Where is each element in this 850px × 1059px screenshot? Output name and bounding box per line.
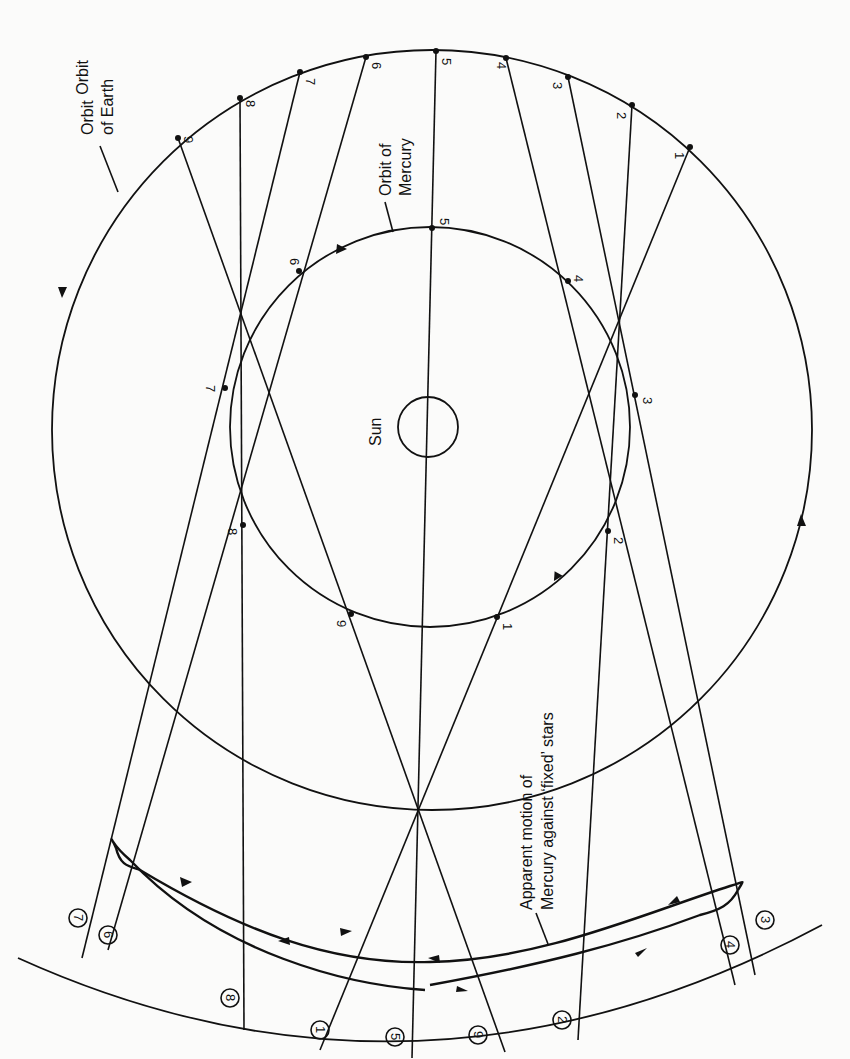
svg-text:6: 6 xyxy=(101,931,116,938)
mercury-orbit-leader xyxy=(385,202,393,232)
fixed-stars-arc xyxy=(18,925,822,1041)
svg-text:4: 4 xyxy=(723,941,738,948)
svg-text:8: 8 xyxy=(223,994,238,1001)
svg-text:3: 3 xyxy=(758,916,773,923)
svg-text:3: 3 xyxy=(640,397,655,404)
earth-orbit-label-line2: of Earth xyxy=(99,79,116,135)
svg-text:1: 1 xyxy=(672,152,687,159)
apparent-motion-label-line2: Mercury against ‘fixed’ stars xyxy=(539,712,556,910)
earth-orbit-label-1: Orbit xyxy=(74,59,91,94)
svg-text:7: 7 xyxy=(71,914,86,921)
svg-text:7: 7 xyxy=(203,385,218,392)
svg-text:4: 4 xyxy=(571,275,586,282)
mercury-orbit-label-line1: Orbit of xyxy=(377,143,394,196)
earth-orbit-label-line1: Orbit xyxy=(79,100,96,135)
orbit-labels: Orbit xyxy=(74,59,91,94)
svg-text:9: 9 xyxy=(181,136,196,143)
svg-text:6: 6 xyxy=(369,62,384,69)
apparent-motion-label-line1: Apparent motion of xyxy=(518,774,535,910)
apparent-motion-leader xyxy=(536,913,548,944)
svg-text:2: 2 xyxy=(611,537,626,544)
sun-label: Sun xyxy=(367,418,384,446)
star-position-labels: 1 2 3 4 5 6 7 8 9 xyxy=(69,909,774,1046)
mercury-orbit-label-line2: Mercury xyxy=(397,138,414,196)
svg-text:7: 7 xyxy=(303,78,318,85)
svg-text:8: 8 xyxy=(243,100,258,107)
svg-text:5: 5 xyxy=(439,58,454,65)
svg-text:1: 1 xyxy=(313,1026,328,1033)
svg-text:8: 8 xyxy=(225,528,240,535)
apparent-motion-path xyxy=(112,839,743,992)
svg-text:9: 9 xyxy=(334,620,349,627)
svg-text:2: 2 xyxy=(555,1016,570,1023)
mercury-point-labels: 1 2 3 4 5 6 7 8 9 xyxy=(203,218,655,630)
mercury-retrograde-diagram: 1 2 3 4 5 6 7 8 9 1 2 3 4 5 6 7 8 9 Orbi… xyxy=(0,0,850,1059)
svg-text:5: 5 xyxy=(437,218,452,225)
svg-text:6: 6 xyxy=(287,258,302,265)
orbit-direction-arrows xyxy=(58,244,806,581)
svg-text:4: 4 xyxy=(494,62,509,69)
svg-text:9: 9 xyxy=(471,1031,486,1038)
svg-text:2: 2 xyxy=(614,112,629,119)
svg-text:3: 3 xyxy=(550,82,565,89)
earth-orbit xyxy=(52,50,812,810)
svg-text:1: 1 xyxy=(500,623,515,630)
svg-text:5: 5 xyxy=(388,1033,403,1040)
earth-orbit-leader xyxy=(100,146,118,192)
